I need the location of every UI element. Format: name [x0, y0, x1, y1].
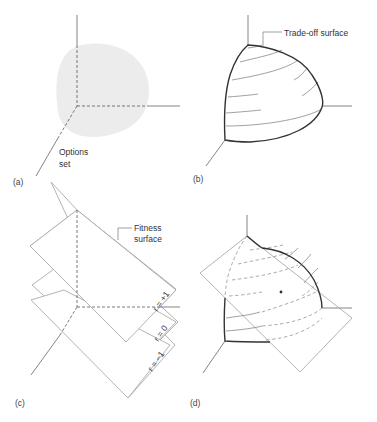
trade-off-callout-line [263, 32, 282, 46]
panel-label-c: (c) [15, 398, 25, 408]
trade-off-surface-boundary [225, 45, 323, 142]
panel-label-a: (a) [13, 177, 24, 187]
optimum-point-marker [280, 291, 283, 294]
fitness-surface-label-line2: surface [134, 234, 162, 244]
axis-depth [31, 335, 60, 375]
panel-a: Options set (a) [13, 15, 180, 187]
figure-canvas: Options set (a) Trade-off surface (b) [0, 0, 377, 422]
fitness-surface-label-line1: Fitness [134, 223, 161, 233]
fitness-callout-line [118, 228, 132, 240]
trade-off-surface-label: Trade-off surface [284, 28, 349, 38]
panel-d: (d) [190, 215, 352, 408]
panel-c: Fitness surface r = +1 r = 0 r = −1 (c) [15, 182, 180, 408]
panel-b: Trade-off surface (b) [193, 15, 352, 184]
trade-off-surface-boundary [262, 248, 322, 308]
options-set-region [56, 43, 149, 137]
options-set-label-line2: set [59, 159, 71, 169]
options-set-label-line1: Options [59, 147, 88, 157]
panel-label-d: (d) [190, 398, 201, 408]
axis-depth [36, 138, 58, 176]
axis-depth [206, 140, 225, 166]
panel-label-b: (b) [193, 174, 204, 184]
